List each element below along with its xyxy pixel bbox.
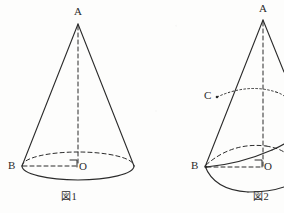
- fig2-slant-left: [205, 20, 263, 167]
- fig2-label-center-O: O: [264, 161, 272, 172]
- fig2-right-angle-mark: [255, 160, 262, 167]
- fig1-caption-number: 1: [72, 191, 78, 202]
- fig2-point-C-dot: [216, 96, 219, 99]
- fig2-slant-right: [263, 20, 284, 72]
- fig1-caption: 図1: [61, 192, 77, 203]
- figure-1-drawing: [0, 0, 284, 213]
- fig1-slant-right: [78, 24, 134, 166]
- fig2-label-point-C: C: [204, 90, 211, 101]
- fig2-upper-dotted-arc-tail: [276, 92, 284, 96]
- fig2-point-B-dot: [205, 166, 208, 169]
- fig1-slant-left: [22, 24, 78, 166]
- fig1-label-point-B: B: [8, 160, 15, 171]
- fig1-label-center-O: O: [79, 161, 87, 172]
- fig2-label-point-B: B: [191, 160, 198, 171]
- fig1-caption-kanji: 図: [61, 191, 72, 202]
- fig2-caption-number: 2: [264, 191, 270, 202]
- fig2-upper-dotted-arc: [217, 88, 276, 97]
- fig2-caption-kanji: 図: [253, 191, 264, 202]
- fig2-swept-arc-upper-tail: [272, 144, 284, 150]
- fig2-base-front-arc: [205, 166, 248, 192]
- fig2-label-apex-A: A: [259, 3, 267, 14]
- fig1-label-apex-A: A: [74, 6, 82, 17]
- fig1-base-front-arc: [22, 166, 134, 180]
- fig2-caption: 図2: [253, 192, 269, 203]
